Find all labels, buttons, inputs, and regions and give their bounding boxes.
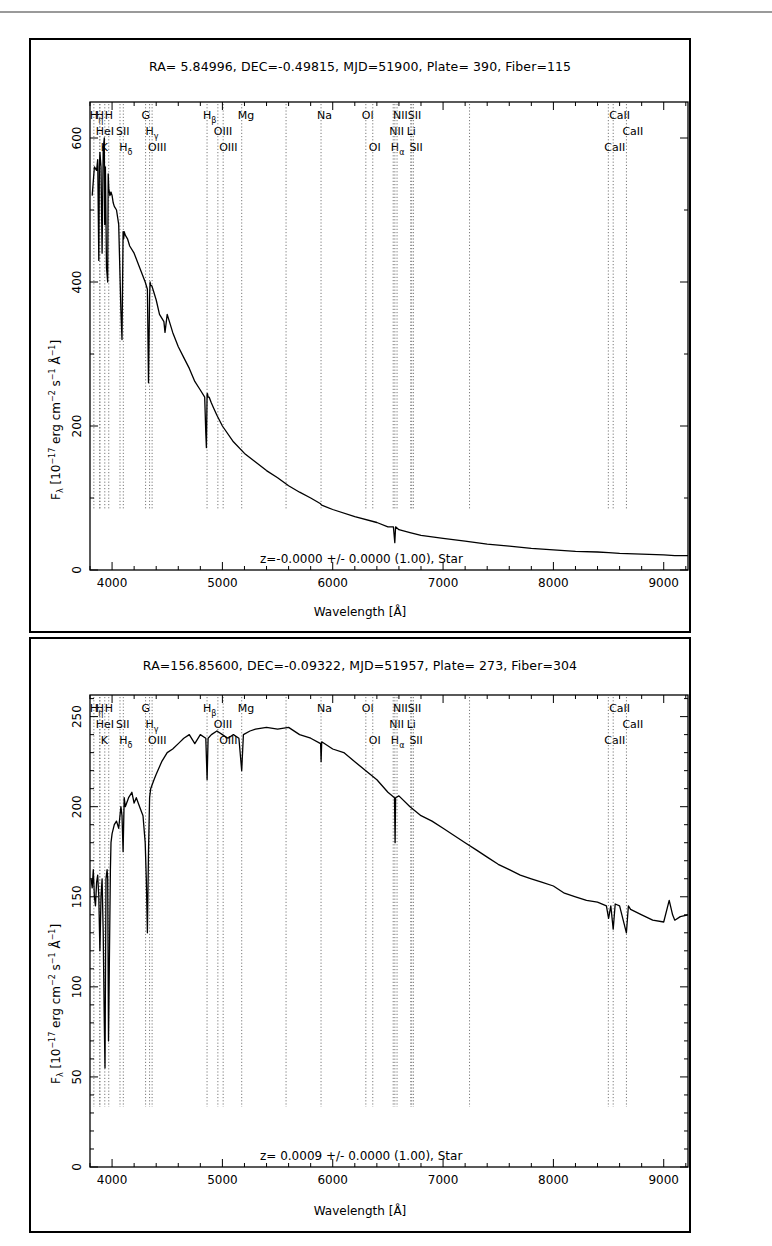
spectrum-line (92, 138, 688, 556)
y-axis-label: Fλ [10−17 erg cm−2 s−1 Å−1] (48, 924, 65, 1084)
emission-line-label: OI (362, 109, 374, 122)
emission-line-label: CaII (622, 125, 643, 138)
emission-line-label: NII (389, 125, 404, 138)
emission-line-label: CaII (609, 702, 630, 715)
plot-frame (90, 102, 688, 570)
emission-line-label: CaII (604, 141, 625, 154)
spectrum-line (91, 727, 688, 1068)
x-tick-label: 6000 (317, 576, 348, 590)
emission-line-label: SII (409, 734, 422, 747)
x-tick-label: 8000 (538, 576, 569, 590)
redshift-annotation: z= 0.0009 +/- 0.0000 (1.00), Star (260, 1149, 462, 1163)
y-tick-label: 150 (70, 885, 84, 908)
emission-line-label: Na (317, 702, 332, 715)
top-separator-rule (0, 11, 772, 13)
x-tick-label: 5000 (207, 1173, 238, 1187)
y-tick-label: 600 (70, 127, 84, 150)
emission-line-label: G (142, 109, 151, 122)
x-tick-label: 6000 (317, 1173, 348, 1187)
emission-line-label: H (105, 702, 113, 715)
x-tick-label: 4000 (97, 576, 128, 590)
emission-line-label: Hα (391, 141, 405, 157)
y-tick-label: 100 (70, 975, 84, 998)
redshift-annotation: z=-0.0000 +/- 0.0000 (1.00), Star (260, 552, 463, 566)
x-tick-label: 8000 (538, 1173, 569, 1187)
x-tick-label: 9000 (648, 1173, 679, 1187)
emission-line-label: SII (408, 702, 421, 715)
spectrum-panel-2: RA=156.85600, DEC=-0.09322, MJD=51957, P… (29, 637, 691, 1233)
emission-line-label: CaII (604, 734, 625, 747)
emission-line-label: H (105, 109, 113, 122)
emission-line-label: Hβ (203, 109, 216, 125)
emission-line-label: OI (369, 141, 381, 154)
y-tick-label: 200 (70, 795, 84, 818)
plot-frame (90, 695, 688, 1167)
emission-line-label: OIII (148, 734, 166, 747)
emission-line-label: Hα (391, 734, 405, 750)
y-tick-label: 50 (70, 1069, 84, 1084)
x-tick-label: 5000 (207, 576, 238, 590)
y-tick-label: 250 (70, 705, 84, 728)
emission-line-label: G (142, 702, 151, 715)
emission-line-label: NII (389, 718, 404, 731)
spectrum-plot: HηHHeIKHSIIHδGHγOIIIHβOIIIOIIIMgNaOIOINI… (2, 639, 772, 1235)
x-axis-label: Wavelength [Å] (31, 605, 689, 619)
x-tick-label: 7000 (428, 1173, 459, 1187)
y-tick-label: 400 (70, 271, 84, 294)
emission-line-label: CaII (622, 718, 643, 731)
emission-line-label: SII (409, 141, 422, 154)
emission-line-label: SII (116, 125, 129, 138)
emission-line-label: K (101, 734, 109, 747)
spectrum-plot: HηHHeIKHSIIHδGHγOIIIHβOIIIOIIIMgNaOIOINI… (2, 40, 772, 635)
emission-line-label: OI (362, 702, 374, 715)
y-tick-label: 0 (70, 1163, 84, 1171)
emission-line-label: Mg (238, 702, 254, 715)
emission-line-label: Na (317, 109, 332, 122)
spectrum-panel-1: RA= 5.84996, DEC=-0.49815, MJD=51900, Pl… (29, 38, 691, 633)
y-tick-label: 200 (70, 415, 84, 438)
emission-line-label: Hδ (119, 141, 132, 157)
emission-line-label: CaII (609, 109, 630, 122)
y-axis-label: Fλ [10−17 erg cm−2 s−1 Å−1] (48, 340, 65, 500)
emission-line-label: NII (393, 109, 408, 122)
emission-line-label: OIII (148, 141, 166, 154)
x-tick-label: 7000 (428, 576, 459, 590)
x-axis-label: Wavelength [Å] (31, 1204, 689, 1218)
y-tick-label: 0 (70, 566, 84, 574)
emission-line-label: OIII (219, 141, 237, 154)
emission-line-label: SII (408, 109, 421, 122)
emission-line-label: Mg (238, 109, 254, 122)
emission-line-label: SII (116, 718, 129, 731)
emission-line-label: Hδ (119, 734, 132, 750)
x-tick-label: 9000 (648, 576, 679, 590)
emission-line-label: NII (393, 702, 408, 715)
emission-line-label: OI (369, 734, 381, 747)
emission-line-label: Hβ (203, 702, 216, 718)
x-tick-label: 4000 (97, 1173, 128, 1187)
